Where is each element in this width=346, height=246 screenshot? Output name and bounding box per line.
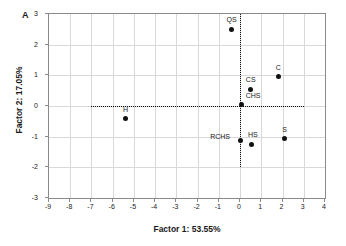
data-point (249, 142, 254, 147)
data-point (238, 138, 243, 143)
x-tick-label: -8 (66, 203, 72, 210)
x-tick-label: -5 (130, 203, 136, 210)
data-point-label: QS (227, 16, 237, 23)
gridline-horizontal (49, 167, 325, 168)
y-tick-mark (45, 13, 48, 14)
y-tick-mark (45, 74, 48, 75)
scatter-plot-area: QSCCSCHSHRCHSHSS (48, 13, 326, 199)
x-tick-mark (154, 199, 155, 202)
y-tick-mark (45, 197, 48, 198)
x-tick-label: 4 (322, 203, 326, 210)
y-tick-label: 1 (34, 71, 38, 78)
x-tick-label: 1 (258, 203, 262, 210)
x-tick-label: 0 (237, 203, 241, 210)
x-tick-label: -1 (215, 203, 221, 210)
x-tick-mark (175, 199, 176, 202)
x-tick-mark (112, 199, 113, 202)
y-axis-label: Factor 2: 17.05% (14, 50, 24, 150)
data-point (248, 87, 253, 92)
y-tick-label: -1 (32, 132, 38, 139)
x-tick-mark (133, 199, 134, 202)
x-tick-mark (260, 199, 261, 202)
x-tick-mark (324, 199, 325, 202)
y-tick-label: 2 (34, 40, 38, 47)
data-point-label: HS (248, 131, 258, 138)
y-tick-mark (45, 136, 48, 137)
gridline-horizontal (49, 75, 325, 76)
data-point (239, 102, 244, 107)
data-point-label: CHS (246, 92, 261, 99)
x-axis-label: Factor 1: 53.55% (48, 224, 326, 234)
data-point (276, 74, 281, 79)
x-tick-label: -3 (172, 203, 178, 210)
x-tick-mark (282, 199, 283, 202)
panel-letter: A (22, 10, 29, 20)
data-point (282, 136, 287, 141)
data-point-label: C (276, 64, 281, 71)
y-tick-label: 0 (34, 102, 38, 109)
data-point-label: S (282, 126, 287, 133)
data-point-label: CS (246, 76, 256, 83)
x-tick-mark (48, 199, 49, 202)
reference-line-vertical (240, 14, 241, 167)
x-tick-label: 3 (301, 203, 305, 210)
x-tick-label: -7 (87, 203, 93, 210)
y-tick-label: 3 (34, 10, 38, 17)
y-tick-mark (45, 105, 48, 106)
x-tick-mark (303, 199, 304, 202)
x-tick-label: 2 (280, 203, 284, 210)
y-tick-label: -3 (32, 194, 38, 201)
data-point-label: RCHS (210, 133, 230, 140)
x-tick-mark (69, 199, 70, 202)
y-tick-label: -2 (32, 163, 38, 170)
x-tick-mark (90, 199, 91, 202)
y-tick-mark (45, 166, 48, 167)
x-tick-mark (197, 199, 198, 202)
x-tick-label: -6 (109, 203, 115, 210)
x-tick-label: -9 (45, 203, 51, 210)
x-tick-label: -4 (151, 203, 157, 210)
figure-panel: A Factor 2: 17.05% Factor 1: 53.55% QSCC… (0, 0, 346, 246)
x-tick-mark (239, 199, 240, 202)
x-tick-mark (218, 199, 219, 202)
y-tick-mark (45, 44, 48, 45)
gridline-horizontal (49, 45, 325, 46)
x-tick-label: -2 (193, 203, 199, 210)
data-point-label: H (123, 106, 128, 113)
data-point (123, 116, 128, 121)
data-point (229, 27, 234, 32)
